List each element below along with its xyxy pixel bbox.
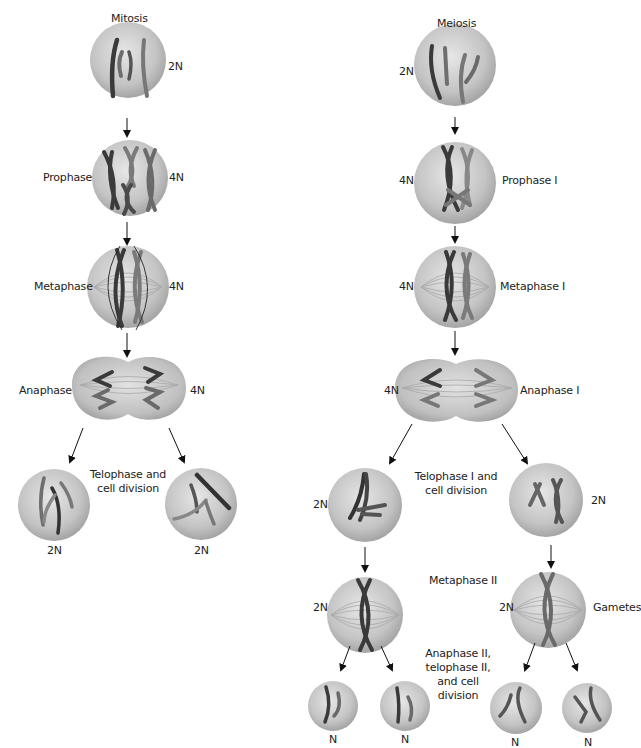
meiosis-cell-metaphase-2-right bbox=[510, 572, 586, 648]
label-line: and cell bbox=[437, 675, 479, 688]
mitosis-meiosis-diagram bbox=[0, 0, 641, 748]
meiosis-cell-prophase-1 bbox=[414, 142, 496, 224]
mitosis-telophase-label: Telophase and cell division bbox=[83, 468, 173, 496]
label-line: Telophase and bbox=[90, 468, 166, 481]
meiosis-telophase-1-right-ploidy: 2N bbox=[591, 494, 606, 507]
meiosis-metaphase-2-left-ploidy: 2N bbox=[313, 601, 328, 614]
mitosis-metaphase-label: Metaphase bbox=[34, 280, 93, 293]
meiosis-cell-metaphase-1 bbox=[414, 246, 496, 328]
meiosis-metaphase-2-label: Metaphase II bbox=[429, 574, 497, 587]
mitosis-daughter-2-ploidy: 2N bbox=[194, 544, 209, 557]
arrow-icon bbox=[525, 643, 535, 670]
meiosis-title: Meiosis bbox=[437, 17, 476, 30]
arrow-icon bbox=[341, 646, 350, 670]
mitosis-cell-metaphase bbox=[87, 246, 169, 330]
mitosis-start-ploidy: 2N bbox=[168, 60, 183, 73]
meiosis-telophase-1-cell-left bbox=[328, 468, 402, 542]
label-line: division bbox=[438, 689, 479, 702]
mitosis-anaphase-label: Anaphase bbox=[19, 384, 72, 397]
arrow-icon bbox=[70, 428, 83, 462]
arrow-icon bbox=[566, 643, 577, 670]
label-line: Telophase I and bbox=[415, 470, 498, 483]
meiosis-cell-anaphase-1 bbox=[395, 359, 518, 422]
meiosis-metaphase-1-ploidy: 4N bbox=[399, 280, 414, 293]
meiosis-telophase-1-label: Telophase I and cell division bbox=[406, 470, 506, 498]
mitosis-cell-anaphase bbox=[72, 357, 186, 420]
gamete-4-ploidy: N bbox=[584, 736, 592, 748]
arrow-icon bbox=[381, 646, 392, 670]
arrow-icon bbox=[502, 424, 527, 463]
mitosis-daughter-cell-2 bbox=[165, 468, 237, 540]
gamete-cell-4 bbox=[562, 683, 612, 733]
gamete-1-ploidy: N bbox=[329, 733, 337, 746]
meiosis-metaphase-1-label: Metaphase I bbox=[500, 280, 565, 293]
label-line: telophase II, bbox=[426, 661, 491, 674]
mitosis-metaphase-ploidy: 4N bbox=[169, 280, 184, 293]
meiosis-telophase-1-cell-right bbox=[509, 463, 583, 537]
meiosis-prophase-1-label: Prophase I bbox=[502, 174, 557, 187]
meiosis-anaphase-2-label: Anaphase II, telophase II, and cell divi… bbox=[418, 647, 498, 703]
meiosis-anaphase-1-ploidy: 4N bbox=[384, 384, 399, 397]
label-line: cell division bbox=[97, 482, 159, 495]
mitosis-title: Mitosis bbox=[111, 12, 148, 25]
meiosis-metaphase-2-right-ploidy: 2N bbox=[499, 601, 514, 614]
meiosis-start-ploidy: 2N bbox=[399, 65, 414, 78]
mitosis-cell-prophase bbox=[92, 140, 168, 216]
meiosis-cell-start bbox=[414, 24, 496, 106]
label-line: Anaphase II, bbox=[425, 647, 491, 660]
mitosis-prophase-ploidy: 4N bbox=[169, 171, 184, 184]
gamete-2-ploidy: N bbox=[401, 733, 409, 746]
gamete-3-ploidy: N bbox=[511, 736, 519, 748]
arrow-icon bbox=[169, 428, 184, 462]
gamete-cell-1 bbox=[308, 681, 358, 731]
label-line: cell division bbox=[425, 484, 487, 497]
mitosis-cell-start bbox=[90, 22, 166, 98]
arrow-icon bbox=[390, 424, 412, 463]
meiosis-anaphase-1-label: Anaphase I bbox=[520, 384, 579, 397]
meiosis-cell-metaphase-2-left bbox=[327, 577, 403, 653]
mitosis-daughter-cell-1 bbox=[18, 469, 90, 541]
mitosis-anaphase-ploidy: 4N bbox=[190, 384, 205, 397]
meiosis-column bbox=[308, 24, 612, 734]
mitosis-prophase-label: Prophase bbox=[43, 171, 92, 184]
meiosis-prophase-1-ploidy: 4N bbox=[399, 174, 414, 187]
mitosis-daughter-1-ploidy: 2N bbox=[47, 544, 62, 557]
gametes-label: Gametes bbox=[593, 601, 641, 614]
meiosis-telophase-1-left-ploidy: 2N bbox=[313, 498, 328, 511]
